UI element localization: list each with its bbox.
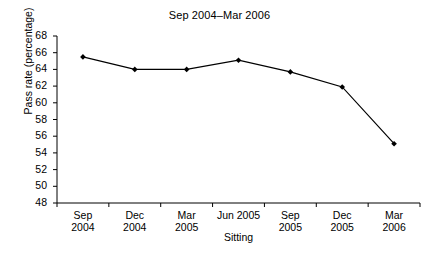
- data-point-marker: [236, 57, 242, 63]
- y-tick-label: 52: [25, 164, 47, 175]
- data-point-marker: [288, 69, 294, 75]
- y-tick-label: 68: [25, 30, 47, 41]
- y-tick-label: 54: [25, 147, 47, 158]
- x-tick-label-line1: Mar: [364, 210, 424, 222]
- data-point-marker: [184, 67, 190, 73]
- series-line: [83, 57, 394, 144]
- y-tick-label: 60: [25, 97, 47, 108]
- y-tick-label: 56: [25, 130, 47, 141]
- y-tick-label: 50: [25, 180, 47, 191]
- data-point-marker: [132, 67, 138, 73]
- x-tick-label-line2: 2005: [157, 222, 217, 234]
- x-tick-label-line2: 2006: [364, 222, 424, 234]
- y-tick-label: 66: [25, 47, 47, 58]
- x-axis-ticks: [57, 203, 420, 207]
- x-tick-label: Mar2006: [364, 210, 424, 233]
- y-tick-label: 58: [25, 114, 47, 125]
- y-tick-label: 48: [25, 197, 47, 208]
- data-point-marker: [80, 54, 86, 60]
- y-tick-label: 64: [25, 63, 47, 74]
- line-chart: Sep 2004–Mar 2006 Pass rate (percentage)…: [0, 0, 439, 258]
- y-tick-label: 62: [25, 80, 47, 91]
- y-axis-ticks: [53, 36, 57, 203]
